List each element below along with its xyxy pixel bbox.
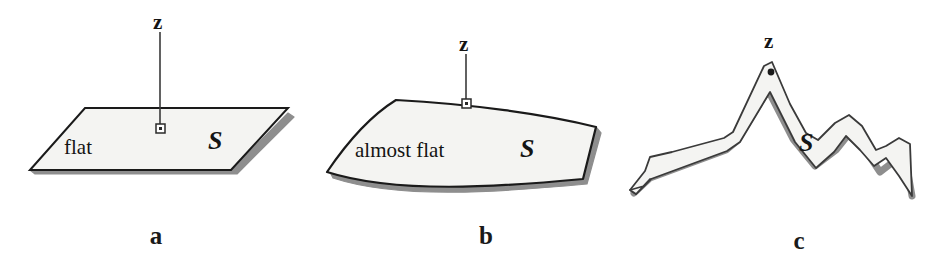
panel-c-point-label: z (764, 29, 773, 54)
panel-b-descriptor: almost flat (355, 138, 444, 163)
panel-b-caption: b (466, 222, 506, 250)
panel-b-point-dot (465, 102, 468, 105)
panel-a-caption: a (136, 222, 176, 250)
figure-three-surfaces: z flat S a z almost flat S b z S c (0, 0, 935, 277)
panel-b-graphic (327, 54, 601, 192)
panel-c-graphic (630, 62, 912, 196)
panel-b-surface-label: S (520, 134, 534, 164)
panel-a-descriptor: flat (64, 135, 92, 160)
panel-c-caption: c (779, 227, 819, 255)
panel-a-point-label: z (153, 10, 162, 35)
panel-c-surface-label: S (799, 128, 813, 158)
panel-c-ridge (630, 62, 912, 196)
panel-a-surface-label: S (208, 126, 222, 156)
panel-a-point-dot (159, 127, 162, 130)
panel-c-point-marker (768, 69, 775, 76)
panel-b-point-label: z (459, 32, 468, 57)
